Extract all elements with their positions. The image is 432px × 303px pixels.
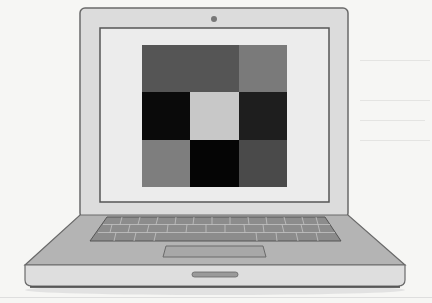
grid-cell-r2c1 xyxy=(142,92,190,140)
grid-cell-r1c2 xyxy=(190,45,239,92)
page xyxy=(0,0,432,303)
grid-cell-r2c3 xyxy=(239,92,287,140)
trackpad xyxy=(163,246,266,257)
grid-cell-r3c1 xyxy=(142,140,190,187)
grid-cell-r2c2 xyxy=(190,92,239,140)
grid-cell-r1c1 xyxy=(142,45,190,92)
grid-cell-r3c3 xyxy=(239,140,287,187)
lid-release-notch xyxy=(192,272,238,277)
grid-cell-r3c2 xyxy=(190,140,239,187)
screen-image-grid xyxy=(142,45,287,187)
webcam-icon xyxy=(211,16,217,22)
grid-cell-r1c3 xyxy=(239,45,287,92)
